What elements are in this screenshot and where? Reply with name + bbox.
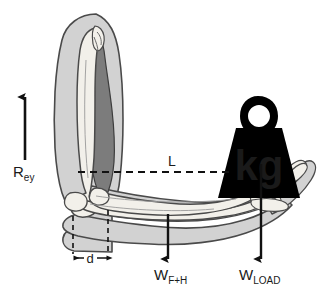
load-weight-label: WLOAD (239, 266, 280, 286)
forearm-hand-weight-subscript: F+H (168, 275, 187, 286)
forearm-hand-weight-symbol: W (154, 266, 169, 283)
reaction-force-subscript: ey (24, 172, 35, 183)
moment-arm-L-label: L (168, 153, 176, 169)
load-weight-subscript: LOAD (253, 275, 280, 286)
olecranon (64, 192, 87, 211)
forearm-hand-weight-label: WF+H (154, 266, 187, 286)
load-weight-symbol: W (239, 266, 254, 283)
reaction-force-symbol: R (13, 163, 24, 180)
weight-kg-label: kg (234, 142, 283, 189)
weight-group: kg (218, 96, 300, 198)
moment-arm-d-label: d (86, 251, 93, 266)
figure-canvas: kg Rey L d (0, 0, 326, 296)
reaction-force-label: Rey (13, 163, 34, 183)
biomechanics-figure: kg Rey L d (0, 0, 326, 296)
